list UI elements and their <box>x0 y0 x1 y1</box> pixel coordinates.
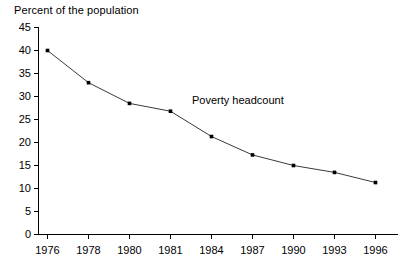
data-point-marker <box>374 181 378 185</box>
data-point-marker <box>292 164 296 168</box>
y-tick-label: 20 <box>19 136 31 148</box>
y-tick-label: 10 <box>19 182 31 194</box>
x-tick-label: 1984 <box>199 244 223 256</box>
data-point-marker <box>251 153 255 157</box>
series-annotation-label: Poverty headcount <box>192 94 284 106</box>
x-axis-tick-labels: 1976 1978 1980 1981 1984 1987 1990 1993 … <box>35 244 387 256</box>
y-tick-label: 40 <box>19 44 31 56</box>
y-tick-label: 35 <box>19 67 31 79</box>
y-axis-ticks <box>34 28 39 235</box>
data-point-marker <box>87 81 91 85</box>
y-tick-label: 25 <box>19 113 31 125</box>
y-tick-label: 15 <box>19 159 31 171</box>
data-point-marker <box>333 171 337 175</box>
chart-plot-area: 0 5 10 15 20 25 30 35 40 45 1976 1978 <box>0 0 405 275</box>
y-tick-label: 0 <box>25 228 31 240</box>
x-tick-label: 1981 <box>158 244 182 256</box>
y-tick-label: 45 <box>19 21 31 33</box>
y-tick-label: 30 <box>19 90 31 102</box>
chart-container: Percent of the population 0 5 10 15 20 2… <box>0 0 405 275</box>
x-tick-label: 1990 <box>281 244 305 256</box>
x-tick-label: 1976 <box>35 244 59 256</box>
x-tick-label: 1987 <box>240 244 264 256</box>
x-tick-label: 1980 <box>117 244 141 256</box>
data-point-marker <box>46 49 50 53</box>
x-axis-ticks <box>48 235 376 240</box>
data-point-marker <box>210 135 214 139</box>
y-axis-tick-labels: 0 5 10 15 20 25 30 35 40 45 <box>19 21 31 240</box>
x-tick-label: 1993 <box>322 244 346 256</box>
x-tick-label: 1978 <box>76 244 100 256</box>
x-tick-label: 1996 <box>363 244 387 256</box>
data-point-marker <box>128 102 132 106</box>
series-markers-poverty-headcount <box>46 49 378 185</box>
y-tick-label: 5 <box>25 205 31 217</box>
data-point-marker <box>169 109 173 113</box>
series-line-poverty-headcount <box>48 51 376 183</box>
